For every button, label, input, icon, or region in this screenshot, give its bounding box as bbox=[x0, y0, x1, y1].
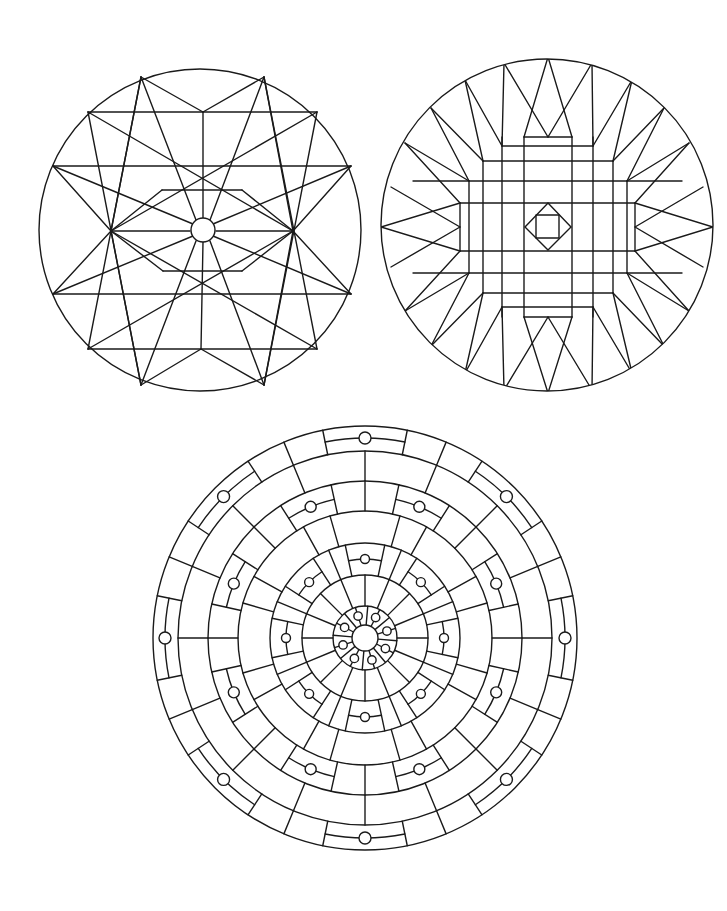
radial-divider bbox=[330, 729, 339, 760]
outline-stroke bbox=[502, 63, 504, 146]
outline-stroke bbox=[465, 80, 502, 146]
inner-dot bbox=[339, 641, 347, 649]
radial-divider bbox=[510, 566, 538, 577]
outline-stroke bbox=[111, 231, 317, 349]
radial-divider bbox=[425, 783, 436, 811]
outline-stroke bbox=[465, 293, 483, 373]
radial-divider bbox=[192, 698, 220, 709]
medallion-dot bbox=[361, 555, 370, 564]
outline-stroke bbox=[111, 112, 317, 231]
radial-divider bbox=[378, 639, 397, 641]
medallion-dot bbox=[218, 491, 230, 503]
inner-dot bbox=[381, 644, 389, 652]
radial-divider bbox=[391, 516, 400, 547]
radial-divider bbox=[320, 593, 342, 615]
outline-stroke bbox=[635, 251, 689, 311]
inner-dot bbox=[350, 654, 358, 662]
medallion-dot bbox=[282, 634, 291, 643]
radial-divider bbox=[243, 603, 274, 612]
outline-stroke bbox=[593, 80, 632, 146]
radial-divider bbox=[243, 664, 274, 673]
radial-divider bbox=[307, 614, 336, 626]
radial-divider bbox=[330, 516, 339, 547]
outline-stroke bbox=[613, 293, 664, 346]
radial-divider bbox=[425, 465, 436, 493]
medallion-dot bbox=[305, 689, 314, 698]
radial-divider bbox=[455, 527, 476, 548]
outline-stroke bbox=[293, 231, 351, 294]
outline-stroke bbox=[635, 203, 713, 227]
radial-divider bbox=[233, 749, 254, 770]
outline-stroke bbox=[405, 251, 460, 311]
outline-stroke bbox=[431, 108, 483, 161]
radial-divider bbox=[476, 749, 497, 770]
medallion-dot bbox=[359, 432, 371, 444]
radial-divider bbox=[169, 710, 192, 720]
outline-stroke bbox=[593, 307, 632, 373]
radial-divider bbox=[307, 650, 336, 662]
radial-divider bbox=[233, 506, 254, 527]
outline-stroke bbox=[592, 63, 593, 146]
outline-stroke bbox=[504, 317, 548, 390]
radial-divider bbox=[169, 557, 192, 567]
outline-stroke bbox=[613, 80, 632, 161]
outline-stroke bbox=[548, 57, 572, 137]
radial-divider bbox=[377, 668, 389, 697]
star-mandala bbox=[39, 69, 361, 391]
center-circle bbox=[352, 625, 378, 651]
radial-divider bbox=[538, 710, 561, 720]
outline-stroke bbox=[548, 317, 592, 390]
outline-stroke bbox=[635, 143, 689, 203]
radial-divider bbox=[423, 602, 453, 614]
radial-divider bbox=[476, 506, 497, 527]
radial-divider bbox=[341, 668, 353, 697]
radial-divider bbox=[395, 614, 424, 626]
outline-stroke bbox=[381, 203, 460, 227]
radial-divider bbox=[293, 465, 304, 493]
outline-stroke bbox=[592, 307, 593, 390]
outline-stroke bbox=[548, 63, 592, 137]
outline-stroke bbox=[201, 349, 264, 385]
radial-divider bbox=[538, 557, 561, 567]
outline-stroke bbox=[502, 307, 504, 390]
radial-divider bbox=[362, 651, 364, 670]
radial-divider bbox=[448, 576, 476, 592]
outline-stroke bbox=[203, 77, 264, 112]
medallion-dot bbox=[228, 687, 239, 698]
medallion-dot bbox=[440, 634, 449, 643]
outline-stroke bbox=[53, 236, 193, 294]
inner-dot bbox=[354, 612, 362, 620]
radial-divider bbox=[389, 550, 401, 580]
radial-divider bbox=[388, 593, 410, 615]
outline-stroke bbox=[405, 143, 460, 203]
outline-stroke bbox=[242, 190, 293, 231]
outline-stroke bbox=[293, 166, 351, 231]
radial-divider bbox=[437, 811, 447, 834]
radial-divider bbox=[388, 661, 410, 683]
medallion-dot bbox=[414, 501, 425, 512]
outline-stroke bbox=[431, 293, 483, 346]
outline-stroke bbox=[465, 80, 483, 161]
medallion-dot bbox=[491, 687, 502, 698]
radial-divider bbox=[423, 662, 453, 674]
inner-dot bbox=[340, 623, 348, 631]
radial-divider bbox=[284, 811, 294, 834]
medallion-dot bbox=[218, 773, 230, 785]
radial-divider bbox=[456, 603, 487, 612]
radial-divider bbox=[192, 566, 220, 577]
inner-dot bbox=[383, 627, 391, 635]
grid-mandala bbox=[381, 57, 713, 393]
outline-stroke bbox=[88, 112, 293, 231]
outline-stroke bbox=[141, 77, 203, 112]
radial-divider bbox=[254, 527, 275, 548]
medallion-dot bbox=[559, 632, 571, 644]
radial-divider bbox=[254, 684, 282, 700]
inner-dot bbox=[368, 656, 376, 664]
radial-divider bbox=[277, 662, 307, 674]
medallion-dot bbox=[500, 491, 512, 503]
radial-divider bbox=[293, 783, 304, 811]
radial-divider bbox=[411, 721, 427, 749]
medallion-dot bbox=[414, 764, 425, 775]
outline-stroke bbox=[141, 349, 201, 385]
outline-stroke bbox=[613, 108, 664, 161]
